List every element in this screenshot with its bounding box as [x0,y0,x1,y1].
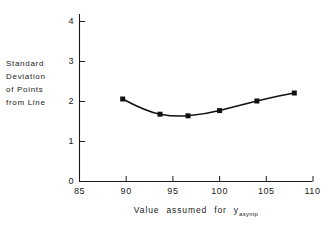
x-axis-label-text: Valueassumedfory [134,205,239,215]
plot-area [0,0,325,227]
x-tick-label-90: 90 [121,187,132,196]
y-axis-label-line-3: of Points [6,83,72,96]
y-axis-label: Standard Deviation of Points from Line [6,57,72,109]
y-tick-marks [80,22,86,182]
y-axis-label-line-1: Standard [6,57,72,70]
y-tick-label-1: 1 [62,137,74,146]
x-tick-label-100: 100 [211,187,228,196]
x-axis-label: Valueassumedforyasymp [79,205,313,217]
x-tick-label-105: 105 [258,187,275,196]
x-tick-label-110: 110 [304,187,320,196]
x-tick-label-85: 85 [74,187,85,196]
data-markers [120,91,297,119]
chart-figure: 0 1 2 3 4 85 90 95 100 105 110 Standard … [0,0,325,227]
y-axis-label-line-2: Deviation [6,70,72,83]
data-line [123,93,295,116]
y-tick-label-0: 0 [62,177,74,186]
x-tick-label-95: 95 [167,187,178,196]
x-tick-marks [80,176,314,182]
y-axis-label-line-4: from Line [6,96,72,109]
y-tick-label-4: 4 [62,17,74,26]
x-axis-label-subscript: asymp [239,211,258,217]
